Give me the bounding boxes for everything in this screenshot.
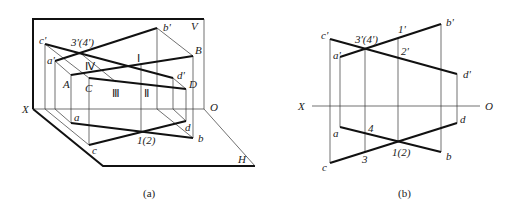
label-2-prime-b: 2' (401, 45, 410, 57)
label-3-4-prime: 3'(4') (70, 36, 94, 49)
label-d: d (185, 121, 191, 133)
label-b: b (198, 132, 204, 144)
label-O-a: O (210, 101, 218, 113)
diagram-canvas: c' a' 3'(4') b' V B Ⅰ Ⅳ A C Ⅲ Ⅱ d' D X O… (0, 0, 509, 214)
label-c-prime-b: c' (321, 29, 329, 41)
label-a-prime-b: a' (333, 49, 342, 61)
label-d-prime: d' (177, 69, 186, 81)
figure-b: c' a' 3'(4') 1' 2' b' d' X O d a 4 1(2) … (297, 16, 493, 200)
label-b-prime-b: b' (446, 16, 455, 28)
label-b-b: b (446, 150, 452, 162)
segment-CD (89, 78, 186, 89)
label-IV: Ⅳ (85, 60, 96, 72)
caption-a: (a) (143, 187, 156, 200)
label-4-b: 4 (368, 122, 374, 134)
label-X-a: X (21, 103, 30, 115)
label-b-prime: b' (163, 21, 172, 33)
label-c: c (92, 144, 97, 156)
label-D: D (188, 78, 197, 90)
label-1-2-b: 1(2) (392, 146, 411, 159)
label-C: C (85, 82, 93, 94)
segment-ab-b (340, 127, 441, 152)
label-a-b: a (333, 127, 339, 139)
label-V-plane: V (191, 20, 199, 32)
label-a: a (74, 111, 80, 123)
label-1-prime-b: 1' (398, 23, 407, 35)
label-c-prime: c' (39, 34, 47, 46)
label-1-2: 1(2) (137, 134, 156, 147)
label-II: Ⅱ (144, 87, 149, 99)
segment-c'd'-b (330, 39, 457, 74)
label-A: A (62, 78, 70, 90)
label-B: B (195, 44, 202, 56)
label-a-prime: a' (47, 54, 56, 66)
label-I: Ⅰ (137, 52, 140, 64)
label-c-b: c (322, 161, 327, 173)
h-plane-right-edge (204, 109, 255, 166)
label-X-b: X (297, 100, 306, 112)
label-O-b: O (485, 100, 493, 112)
figure-a: c' a' 3'(4') b' V B Ⅰ Ⅳ A C Ⅲ Ⅱ d' D X O… (21, 19, 255, 200)
label-d-b: d (460, 113, 466, 125)
label-d-prime-b: d' (463, 68, 472, 80)
caption-b: (b) (398, 187, 411, 200)
label-III: Ⅲ (112, 87, 120, 99)
label-3-b: 3 (361, 153, 368, 165)
label-3-4-prime-b: 3'(4') (354, 33, 378, 46)
label-H-plane: H (237, 153, 247, 165)
